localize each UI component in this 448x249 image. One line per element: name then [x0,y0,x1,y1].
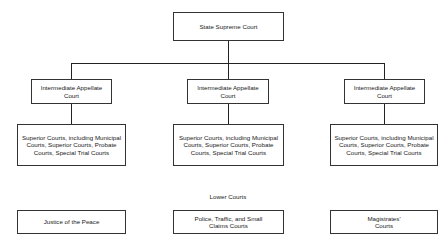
state-supreme-court-box: State Supreme Court [173,12,284,41]
connector-left-down [71,63,72,79]
intermediate-appellate-court-label: Intermediate Appellate Court [35,84,108,99]
connector-center-mid [228,103,229,124]
intermediate-appellate-court-box-left: Intermediate Appellate Court [31,79,112,104]
intermediate-appellate-court-box-center: Intermediate Appellate Court [187,79,269,104]
state-supreme-court-label: State Supreme Court [199,23,257,30]
police-traffic-small-claims-box: Police, Traffic, and Small Claims Courts [173,210,284,234]
lower-courts-heading: Lower Courts [178,193,278,200]
superior-courts-label: Superior Courts, including Municipal Cou… [177,134,280,156]
superior-courts-box-right: Superior Courts, including Municipal Cou… [330,124,438,166]
connector-center-down [228,63,229,79]
superior-courts-label: Superior Courts, including Municipal Cou… [334,134,434,156]
superior-courts-label: Superior Courts, including Municipal Cou… [21,134,122,156]
connector-right-mid [384,103,385,124]
connector-right-down [384,63,385,79]
connector-left-mid [71,103,72,124]
magistrates-courts-box: Magistrates' Courts [330,210,438,234]
justice-of-the-peace-label: Justice of the Peace [44,218,100,225]
superior-courts-box-center: Superior Courts, including Municipal Cou… [173,124,284,166]
police-traffic-small-claims-label: Police, Traffic, and Small Claims Courts [192,215,265,230]
superior-courts-box-left: Superior Courts, including Municipal Cou… [17,124,126,166]
magistrates-courts-label: Magistrates' Courts [365,215,403,230]
intermediate-appellate-court-label: Intermediate Appellate Court [348,84,421,99]
intermediate-appellate-court-label: Intermediate Appellate Court [191,84,265,99]
intermediate-appellate-court-box-right: Intermediate Appellate Court [344,79,425,104]
connector-root-down [228,40,229,63]
justice-of-the-peace-box: Justice of the Peace [17,210,126,234]
